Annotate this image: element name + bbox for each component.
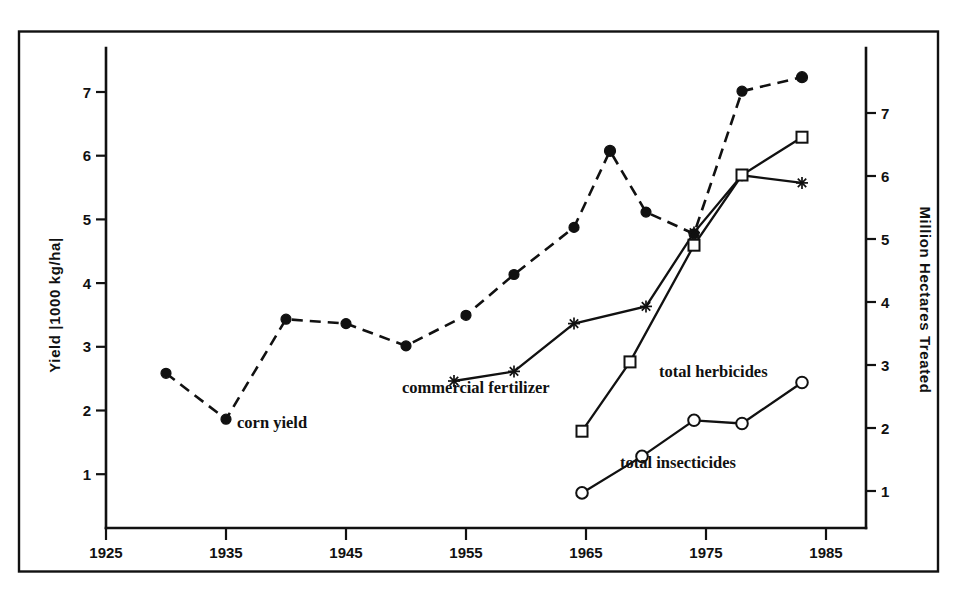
x-tick-label-1945: 1945 [329,544,362,561]
left-tick-label-6: 6 [83,147,91,164]
bottom-axis-ticks: 1925 1935 1945 1955 1965 1975 1985 [89,528,842,561]
total-insecticides-line [582,383,802,493]
right-tick-label-2: 2 [881,420,889,437]
right-tick-label-5: 5 [881,231,889,248]
total-insecticides-markers [576,377,808,499]
annotation-total-herbicides: total herbicides [659,362,768,381]
right-tick-label-1: 1 [881,483,889,500]
total-herbicides-line [582,137,802,431]
right-axis-title: Million Hectares Treated [917,207,934,394]
x-tick-label-1935: 1935 [209,544,242,561]
figure-border [19,32,938,572]
left-tick-label-1: 1 [83,466,91,483]
commercial-fertilizer-markers [448,169,808,387]
x-tick-label-1955: 1955 [449,544,482,561]
series-total-herbicides [577,132,808,437]
chart-canvas: 7 6 5 4 3 2 1 7 6 5 4 3 2 [0,0,959,600]
left-tick-label-4: 4 [83,275,92,292]
left-tick-label-5: 5 [83,211,91,228]
annotation-corn-yield: corn yield [237,413,307,432]
left-tick-label-3: 3 [83,338,91,355]
right-tick-label-3: 3 [881,357,889,374]
left-tick-label-2: 2 [83,402,91,419]
left-tick-label-7: 7 [83,84,91,101]
series-commercial-fertilizer [448,169,808,387]
annotation-total-insecticides: total insecticides [620,453,737,472]
right-tick-label-4: 4 [881,294,890,311]
right-axis-ticks: 7 6 5 4 3 2 1 [866,105,890,500]
right-tick-label-6: 6 [881,168,889,185]
chart-figure: 7 6 5 4 3 2 1 7 6 5 4 3 2 [0,0,959,600]
x-tick-label-1985: 1985 [809,544,842,561]
x-tick-label-1975: 1975 [689,544,722,561]
commercial-fertilizer-line [454,175,802,381]
x-tick-label-1965: 1965 [569,544,602,561]
x-tick-label-1925: 1925 [89,544,122,561]
annotation-commercial-fertilizer: commercial fertilizer [402,378,550,397]
right-tick-label-7: 7 [881,105,889,122]
left-axis-title: Yield |1000 kg/ha| [46,237,63,372]
left-axis-ticks: 7 6 5 4 3 2 1 [83,84,106,483]
series-total-insecticides [576,377,808,499]
